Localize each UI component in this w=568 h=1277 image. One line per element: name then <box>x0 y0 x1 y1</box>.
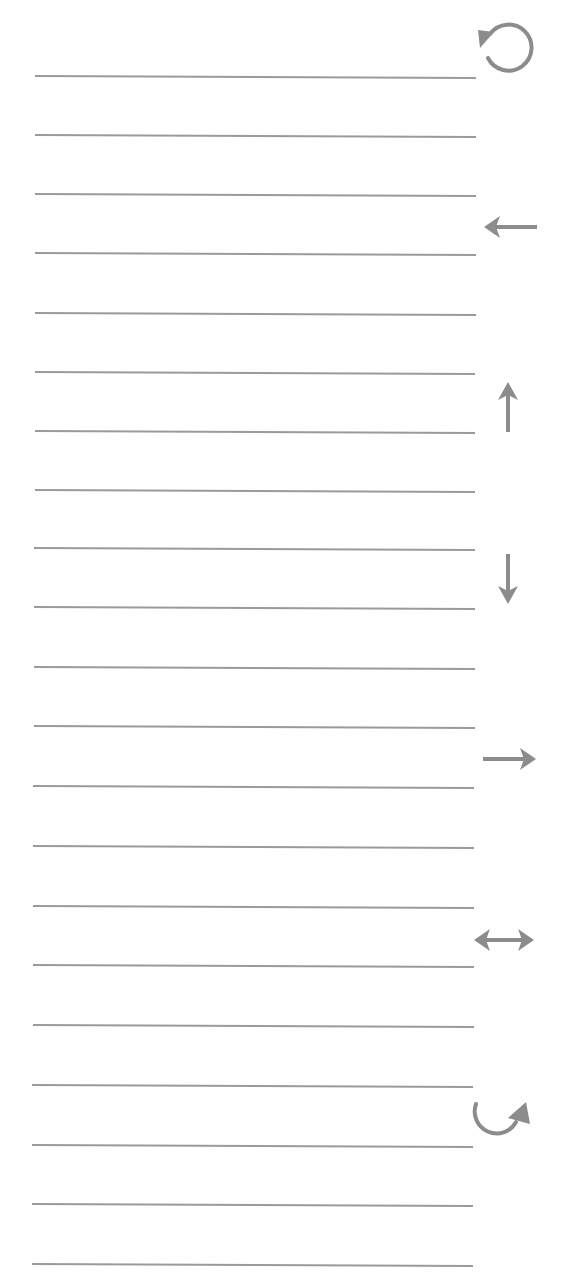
ruled-line <box>34 547 475 551</box>
ruled-line <box>35 371 475 375</box>
ruled-line <box>34 666 475 670</box>
ruled-line <box>32 1144 473 1148</box>
ruled-line <box>32 1263 473 1267</box>
ruled-line <box>35 75 476 79</box>
ruled-line <box>33 785 474 789</box>
arrow-left-right-icon[interactable] <box>472 925 536 955</box>
ruled-line <box>32 1084 473 1088</box>
ruled-line <box>35 312 476 316</box>
rotate-counterclockwise-icon[interactable] <box>474 20 538 76</box>
ruled-line <box>35 489 475 493</box>
rotate-clockwise-icon[interactable] <box>472 1100 536 1146</box>
ruled-line <box>33 1024 474 1028</box>
ruled-line <box>35 430 475 434</box>
arrow-down-icon[interactable] <box>496 552 520 606</box>
ruled-line <box>33 845 474 849</box>
ruled-line <box>34 606 475 610</box>
arrow-up-icon[interactable] <box>496 380 520 436</box>
ruled-line <box>35 134 476 138</box>
ruled-line <box>34 725 475 729</box>
ruled-line <box>35 193 476 197</box>
ruled-line <box>33 905 474 909</box>
arrow-left-icon[interactable] <box>482 212 540 242</box>
ruled-line <box>33 964 474 968</box>
ruled-line <box>35 252 476 256</box>
arrow-right-icon[interactable] <box>480 744 538 774</box>
ruled-line <box>32 1203 473 1207</box>
